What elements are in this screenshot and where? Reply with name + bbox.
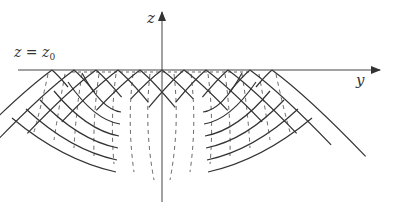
- wavefront-arc-inner: [52, 70, 68, 87]
- wavefront-arc: [0, 70, 52, 156]
- y-axis-label: y: [356, 73, 364, 88]
- wavefront-lower-arc: [207, 109, 298, 160]
- surface-label-subscript: 0: [49, 52, 55, 62]
- wavefront-lower-arc: [206, 100, 284, 148]
- wavefront-arc-inner: [202, 70, 228, 97]
- wavefront-lower-arc: [208, 118, 312, 172]
- wavefront-arc: [131, 70, 162, 99]
- surface-label-lhs: z: [14, 44, 21, 60]
- wavefront-arc: [162, 70, 193, 99]
- wavefront-arc-inner: [96, 70, 122, 97]
- wavefront-diagram: [0, 0, 398, 212]
- wavefront-arc: [206, 70, 262, 122]
- surface-label: z = z0: [14, 45, 55, 62]
- wavefront-arc: [62, 70, 118, 122]
- z-axis-label: z: [147, 11, 155, 26]
- surface-label-eq: =: [26, 44, 38, 60]
- wavefront-arc: [250, 70, 331, 145]
- ray-line: [148, 74, 154, 180]
- ray-line: [170, 74, 176, 180]
- wavefront-arc-inner: [256, 70, 272, 87]
- wavefront-lower-arc: [12, 118, 116, 172]
- ray-line: [190, 74, 194, 172]
- wavefront-lower-arc: [40, 100, 118, 148]
- wavefront-lines: [0, 70, 366, 172]
- ray-line: [130, 74, 134, 172]
- wavefront-arc: [272, 70, 366, 156]
- wavefront-lower-arc: [26, 109, 117, 160]
